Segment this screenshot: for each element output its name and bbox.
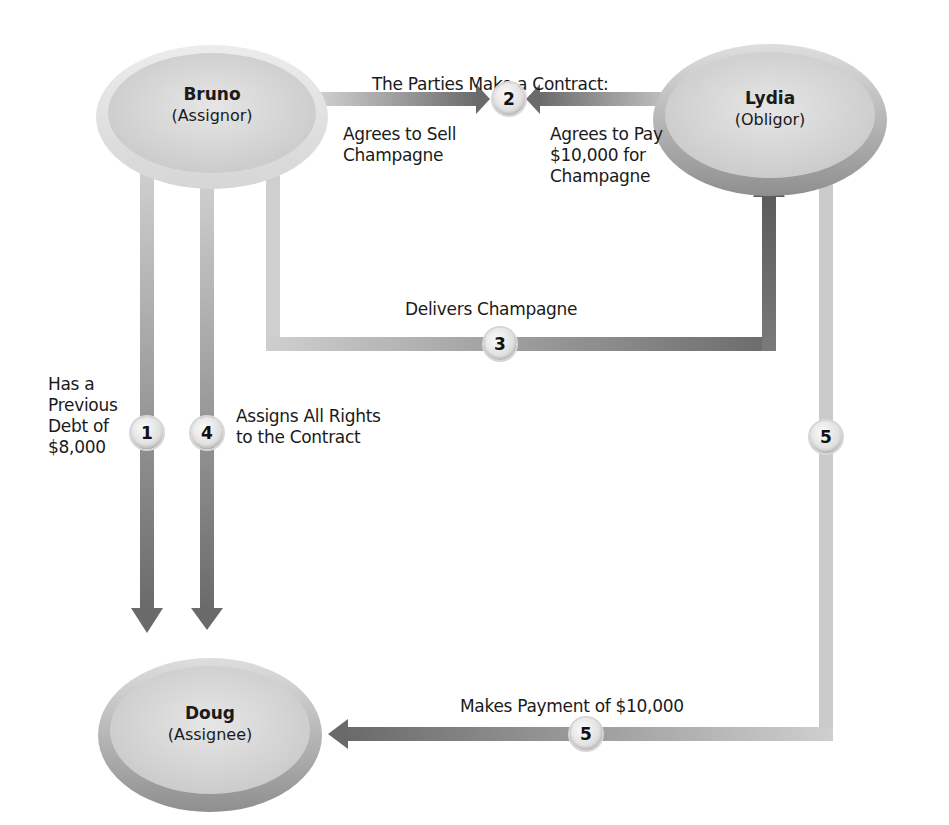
step-4-badge: 4	[191, 417, 223, 449]
step-1-badge: 1	[131, 417, 163, 449]
step-1-line: $8,000	[48, 437, 117, 458]
node-doug-name: Doug	[110, 703, 310, 724]
step-2-right-label: Agrees to Pay $10,000 for Champagne	[550, 124, 663, 187]
node-bruno-role: (Assignor)	[112, 105, 312, 126]
node-lydia-role: (Obligor)	[670, 109, 870, 130]
step-4-line: to the Contract	[236, 427, 381, 448]
step-5-badge-vertical: 5	[810, 421, 842, 453]
step-4-label: Assigns All Rights to the Contract	[236, 406, 381, 448]
step-1-label: Has a Previous Debt of $8,000	[48, 374, 117, 458]
arrow-step-3	[266, 170, 785, 351]
step-3-badge: 3	[484, 328, 516, 360]
step-2-left-label: Agrees to Sell Champagne	[343, 124, 456, 166]
step-1-line: Has a	[48, 374, 117, 395]
arrow-step-5	[328, 180, 833, 749]
step-3-label: Delivers Champagne	[405, 299, 577, 320]
arrow-step-4	[191, 182, 223, 630]
step-2-badge: 2	[493, 83, 525, 115]
step-1-line: Previous	[48, 395, 117, 416]
step-5-badge-horizontal: 5	[570, 718, 602, 750]
step-4-line: Assigns All Rights	[236, 406, 381, 427]
diagram-title: The Parties Make a Contract:	[372, 74, 609, 95]
arrow-step-1	[131, 170, 163, 633]
step-1-line: Debt of	[48, 416, 117, 437]
node-bruno-name: Bruno	[112, 84, 312, 105]
step-2-left-line: Agrees to Sell	[343, 124, 456, 145]
node-doug-role: (Assignee)	[110, 724, 310, 745]
step-5-label: Makes Payment of $10,000	[460, 696, 684, 717]
node-bruno: Bruno (Assignor)	[112, 84, 312, 126]
node-doug: Doug (Assignee)	[110, 703, 310, 745]
node-lydia: Lydia (Obligor)	[670, 88, 870, 130]
step-2-right-line: Champagne	[550, 166, 663, 187]
node-lydia-name: Lydia	[670, 88, 870, 109]
step-2-right-line: $10,000 for	[550, 145, 663, 166]
step-2-right-line: Agrees to Pay	[550, 124, 663, 145]
step-2-left-line: Champagne	[343, 145, 456, 166]
